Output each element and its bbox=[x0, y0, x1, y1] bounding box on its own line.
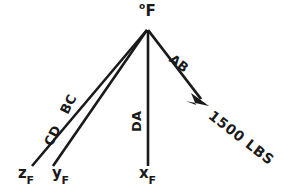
node-label-apex: oF bbox=[139, 3, 156, 19]
axis-label-z: zF bbox=[18, 166, 35, 184]
axis-subscript-y: F bbox=[61, 174, 69, 187]
apex-superscript: o bbox=[139, 1, 145, 11]
force-diagram-svg bbox=[0, 0, 287, 188]
apex-letter: F bbox=[145, 2, 155, 20]
member-label-da: DA bbox=[130, 111, 143, 132]
force-diagram-canvas: oF zF yF xF AB BC CD DA 1500 LBS bbox=[0, 0, 287, 188]
axis-subscript-z: F bbox=[26, 174, 34, 187]
axis-label-x: xF bbox=[139, 166, 157, 184]
axis-label-y: yF bbox=[52, 166, 70, 184]
axis-subscript-x: F bbox=[148, 174, 156, 187]
